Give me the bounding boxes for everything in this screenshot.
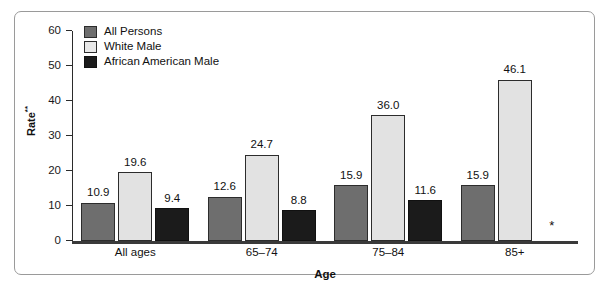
x-axis-category-label: All ages [115,247,156,259]
bar[interactable] [245,155,279,241]
y-axis-tick: 10 [66,205,72,206]
legend-item-white-male: White Male [84,39,219,54]
y-axis-title-text: Rate [25,112,37,136]
bar[interactable] [282,210,316,241]
legend-label-white-male: White Male [104,41,162,53]
bar-value-label: 15.9 [340,170,362,182]
bar[interactable] [334,185,368,241]
figure: Rate** 0102030405060 10.919.69.4All ages… [0,0,611,290]
bar-value-label: 11.6 [414,185,436,197]
y-axis-tick-label: 50 [48,60,61,72]
legend-item-all-persons: All Persons [84,24,219,39]
legend-item-african-american-male: African American Male [84,54,219,69]
bar[interactable] [498,80,532,241]
bar-value-label: 8.8 [291,195,307,207]
y-axis-tick-label: 60 [48,25,61,37]
legend-swatch-icon-white-male [84,41,97,53]
bar-value-label: 9.4 [164,193,180,205]
y-axis-tick: 20 [66,170,72,171]
y-axis-tick-label: 0 [55,235,61,247]
bar-value-label: 24.7 [251,139,273,151]
bar-group: 15.936.011.675–84 [334,31,442,241]
bar[interactable] [155,208,189,241]
y-axis-tick: 30 [66,135,72,136]
x-axis-category-label: 65–74 [246,247,278,259]
y-axis-tick: 40 [66,100,72,101]
y-axis-tick-label: 20 [48,165,61,177]
bar-value-label: 12.6 [214,181,236,193]
bar[interactable] [81,203,115,241]
bar-value-label: 36.0 [377,100,399,112]
legend-swatch-icon-african-american-male [84,56,97,68]
bar-group: 15.946.1*85+ [461,31,569,241]
legend-label-all-persons: All Persons [104,26,162,38]
suppressed-value-marker: * [549,219,554,232]
legend-label-african-american-male: African American Male [104,56,219,68]
y-axis-tick: 50 [66,65,72,66]
x-axis-category-label: 75–84 [372,247,404,259]
bar-value-label: 46.1 [504,64,526,76]
bar[interactable] [371,115,405,241]
y-axis-tick-label: 40 [48,95,61,107]
legend-swatch-icon-all-persons [84,26,97,38]
x-axis-title: Age [72,269,578,281]
y-axis-tick: 60 [66,30,72,31]
y-axis-title: Rate** [26,106,37,136]
bar[interactable] [408,200,442,241]
y-axis-title-superscript: ** [23,106,32,112]
bar[interactable] [461,185,495,241]
x-axis-category-label: 85+ [505,247,525,259]
y-axis-tick-label: 10 [48,200,61,212]
bar-value-label: 10.9 [87,187,109,199]
y-axis-line [72,31,73,242]
bar[interactable] [118,172,152,241]
legend: All Persons White Male African American … [84,24,219,69]
bar[interactable] [208,197,242,241]
x-axis-line [72,241,578,244]
bar-group: 12.624.78.865–74 [208,31,316,241]
y-axis-tick-label: 30 [48,130,61,142]
bar-value-label: 15.9 [467,170,489,182]
bar-value-label: 19.6 [124,157,146,169]
y-axis-tick: 0 [66,240,72,241]
